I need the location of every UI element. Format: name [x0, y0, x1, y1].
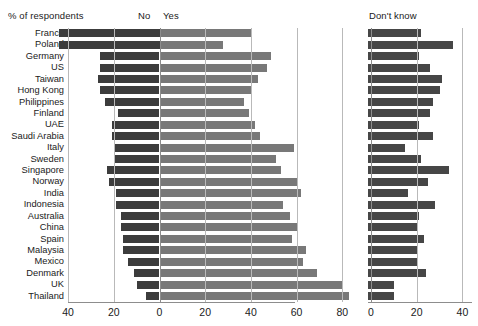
- category-label: Spain: [40, 234, 64, 245]
- bar-dont-know: [368, 155, 421, 163]
- axis-line: [68, 302, 295, 303]
- bar-row: [368, 211, 472, 222]
- legend-label-yes: Yes: [163, 10, 179, 21]
- bar-yes: [160, 109, 249, 117]
- bar-row: [368, 188, 472, 199]
- bar-dont-know: [368, 144, 405, 152]
- bar-no: [98, 75, 160, 83]
- axis-tick-label: 40: [245, 306, 257, 318]
- gridline: [68, 28, 69, 302]
- bar-no: [109, 178, 159, 186]
- bar-dont-know: [368, 86, 440, 94]
- panel-no-yes: [68, 28, 295, 302]
- category-label: Singapore: [22, 165, 64, 176]
- bar-row: [68, 51, 295, 62]
- bar-row: [68, 291, 295, 302]
- bar-row: [368, 245, 472, 256]
- bar-no: [123, 235, 160, 243]
- bars-no-yes: [68, 28, 295, 302]
- bar-dont-know: [368, 29, 421, 37]
- bar-dont-know: [368, 41, 453, 49]
- bar-yes: [160, 223, 297, 231]
- bar-yes: [160, 189, 302, 197]
- panel-dont-know: [368, 28, 472, 302]
- bar-row: [368, 176, 472, 187]
- bar-no: [146, 292, 160, 300]
- bar-row: [68, 234, 295, 245]
- bar-row: [368, 256, 472, 267]
- bar-row: [368, 74, 472, 85]
- bar-row: [68, 131, 295, 142]
- bar-row: [68, 97, 295, 108]
- category-label: Mexico: [35, 256, 64, 267]
- category-label: Sweden: [30, 154, 64, 165]
- bar-dont-know: [368, 212, 419, 220]
- gridline: [205, 28, 206, 302]
- bar-no: [100, 64, 159, 72]
- axis-line: [368, 302, 472, 303]
- category-label: Australia: [28, 211, 64, 222]
- axis-tick-label: 0: [157, 306, 163, 318]
- bar-dont-know: [368, 258, 417, 266]
- bar-yes: [160, 166, 281, 174]
- gridline: [342, 28, 343, 302]
- bar-no: [128, 258, 160, 266]
- gridline-zero: [371, 28, 372, 302]
- category-label: Finland: [34, 108, 65, 119]
- bar-yes: [160, 121, 256, 129]
- axis-tick-label: 40: [62, 306, 74, 318]
- bar-row: [68, 142, 295, 153]
- category-label: Hong Kong: [17, 85, 64, 96]
- bar-row: [68, 119, 295, 130]
- category-axis-labels: FrancePolandGermanyUSTaiwanHong KongPhil…: [0, 28, 64, 302]
- category-label: Germany: [26, 51, 64, 62]
- bar-yes: [160, 258, 304, 266]
- bar-row: [368, 119, 472, 130]
- bar-no: [59, 29, 160, 37]
- bar-row: [368, 291, 472, 302]
- category-label: Indonesia: [24, 199, 64, 210]
- bar-yes: [160, 98, 245, 106]
- bar-no: [137, 281, 160, 289]
- bar-row: [68, 74, 295, 85]
- bar-row: [368, 234, 472, 245]
- chart-root: % of respondents No Yes Don't know Franc…: [0, 0, 478, 326]
- bar-row: [68, 62, 295, 73]
- axis-tick-label: 20: [108, 306, 120, 318]
- category-label: Malaysia: [27, 245, 64, 256]
- bar-no: [100, 52, 159, 60]
- bar-row: [68, 199, 295, 210]
- bar-row: [368, 154, 472, 165]
- bar-dont-know: [368, 75, 442, 83]
- value-axis: 402002040608002040: [0, 302, 478, 326]
- bar-no: [112, 132, 160, 140]
- bar-dont-know: [368, 246, 417, 254]
- bar-row: [368, 51, 472, 62]
- gridline: [251, 28, 252, 302]
- bar-row: [368, 165, 472, 176]
- axis-tick-label: 40: [457, 306, 469, 318]
- bar-dont-know: [368, 109, 430, 117]
- bar-yes: [160, 155, 277, 163]
- bar-dont-know: [368, 132, 433, 140]
- bar-row: [68, 188, 295, 199]
- bar-dont-know: [368, 64, 430, 72]
- axis-tick-label: 80: [336, 306, 348, 318]
- bar-yes: [160, 269, 318, 277]
- y-axis-title: % of respondents: [8, 10, 84, 21]
- bar-row: [68, 154, 295, 165]
- bar-row: [68, 279, 295, 290]
- bar-row: [368, 85, 472, 96]
- gridline: [297, 28, 298, 302]
- bar-row: [68, 39, 295, 50]
- gridline: [114, 28, 115, 302]
- bar-yes: [160, 132, 261, 140]
- bar-yes: [160, 52, 272, 60]
- category-label: Italy: [47, 142, 64, 153]
- axis-tick-label: 20: [199, 306, 211, 318]
- bar-yes: [160, 178, 297, 186]
- axis-tick-label: 0: [368, 306, 374, 318]
- bar-row: [68, 28, 295, 39]
- bar-row: [68, 256, 295, 267]
- bar-row: [68, 108, 295, 119]
